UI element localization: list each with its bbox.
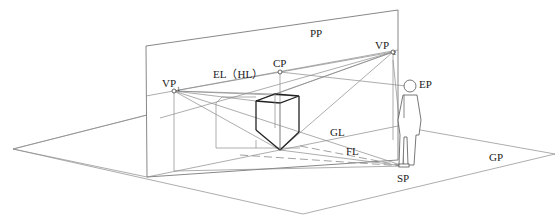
labels: PP VP 2 CP EL（HL） VP 1 EP GL FL GP SP [162, 27, 503, 184]
label-cp: CP [273, 57, 286, 69]
label-vp1-sub: 1 [177, 86, 180, 92]
label-sp: SP [397, 172, 409, 184]
label-vp1: VP [162, 77, 176, 89]
head [404, 80, 416, 92]
construction-lines [160, 52, 406, 171]
label-fl: FL [346, 145, 359, 157]
ghost-box [216, 97, 300, 148]
person-figure [398, 80, 421, 167]
label-ep: EP [419, 78, 432, 90]
ground-plane-front [13, 115, 147, 177]
label-el: EL（HL） [213, 68, 263, 80]
ground-plane [13, 115, 555, 214]
label-pp: PP [310, 27, 322, 39]
cube [256, 94, 299, 150]
label-vp2-sub: 2 [393, 50, 396, 56]
label-vp2: VP [375, 39, 389, 51]
label-gl: GL [330, 126, 345, 138]
cp-marker [278, 70, 282, 74]
perspective-diagram: PP VP 2 CP EL（HL） VP 1 EP GL FL GP SP [0, 0, 558, 220]
label-gp: GP [489, 151, 503, 163]
vp1-marker [172, 89, 176, 93]
